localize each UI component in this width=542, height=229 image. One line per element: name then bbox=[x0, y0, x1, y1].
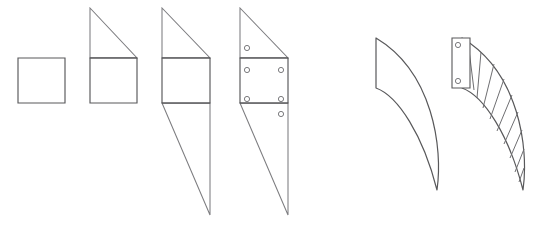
square-body bbox=[90, 58, 137, 103]
lower-wedge bbox=[162, 103, 210, 215]
lower-wedge bbox=[240, 103, 288, 215]
hole-upper-left bbox=[244, 45, 249, 50]
upper-wedge bbox=[90, 8, 137, 58]
hole-bottom-right bbox=[278, 111, 283, 116]
hole-mid-left bbox=[244, 67, 249, 72]
square-body bbox=[18, 58, 65, 103]
shape-square-profile bbox=[18, 58, 65, 103]
group-planar-bracket-progression bbox=[18, 8, 288, 215]
blade-outline bbox=[462, 38, 525, 190]
upper-wedge bbox=[162, 8, 210, 58]
diagram-root bbox=[0, 0, 542, 229]
hole-mid-right bbox=[278, 67, 283, 72]
square-body bbox=[162, 58, 210, 103]
mounting-plate bbox=[452, 38, 470, 88]
group-curved-blade-progression bbox=[376, 38, 525, 190]
shape-double-wedge-profile bbox=[162, 8, 210, 215]
plate-hole-bottom bbox=[455, 78, 460, 83]
blade-outline bbox=[376, 38, 439, 190]
hole-lower-left bbox=[244, 96, 249, 101]
plate-hole-top bbox=[455, 42, 460, 47]
hole-lower-right bbox=[278, 96, 283, 101]
shape-curved-blade-profile bbox=[376, 38, 439, 190]
shape-drilled-double-wedge-profile bbox=[240, 8, 288, 215]
shape-ribbed-curved-blade-profile bbox=[452, 38, 525, 190]
shape-square-with-upper-triangle-profile bbox=[90, 8, 137, 103]
technical-drawing-canvas bbox=[0, 0, 542, 229]
